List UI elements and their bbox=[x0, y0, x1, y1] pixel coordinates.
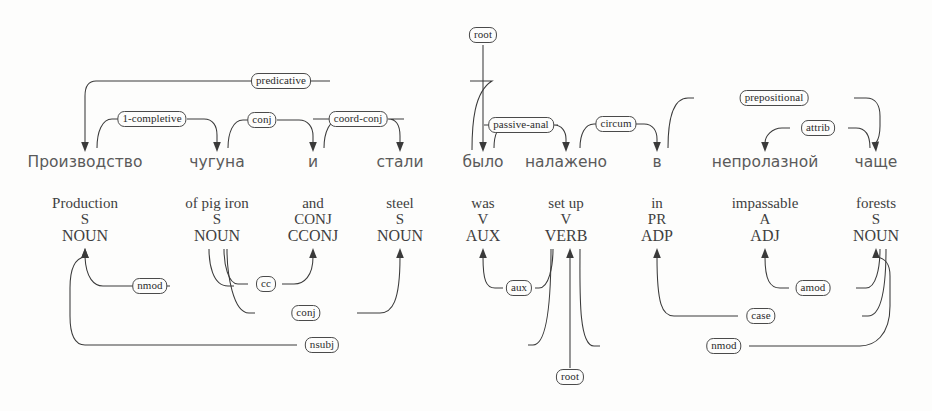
source-word-8[interactable]: чаще bbox=[855, 153, 898, 171]
gloss-block-1[interactable]: of pig ironSNOUN bbox=[185, 195, 248, 244]
relation-label-root-bottom[interactable]: root bbox=[556, 369, 584, 385]
gloss-block-4[interactable]: wasVAUX bbox=[466, 195, 501, 244]
relation-label-attrib[interactable]: attrib bbox=[801, 120, 835, 136]
relation-label-cc[interactable]: cc bbox=[256, 276, 276, 292]
relation-label-predicative[interactable]: predicative bbox=[251, 73, 311, 89]
gloss-pos-6: PR bbox=[641, 211, 673, 227]
relation-label-prepositional[interactable]: prepositional bbox=[740, 90, 809, 106]
gloss-pos-0: S bbox=[52, 211, 118, 227]
gloss-block-3[interactable]: steelSNOUN bbox=[377, 195, 423, 244]
gloss-block-6[interactable]: inPRADP bbox=[641, 195, 673, 244]
relation-label-passive-anal[interactable]: passive-anal bbox=[488, 117, 554, 133]
relation-label-coord-conj[interactable]: coord-conj bbox=[329, 111, 388, 127]
gloss-upos-7: ADJ bbox=[732, 227, 799, 244]
gloss-word-3: steel bbox=[377, 195, 423, 211]
gloss-upos-1: NOUN bbox=[185, 227, 248, 244]
gloss-upos-5: VERB bbox=[545, 227, 588, 244]
source-word-2[interactable]: и bbox=[308, 153, 318, 171]
gloss-pos-2: CONJ bbox=[288, 211, 339, 227]
relation-label-case[interactable]: case bbox=[746, 308, 775, 324]
gloss-upos-6: ADP bbox=[641, 227, 673, 244]
arc-prepositional bbox=[668, 98, 880, 152]
gloss-word-0: Production bbox=[52, 195, 118, 211]
gloss-pos-7: A bbox=[732, 211, 799, 227]
dependency-parse-figure: predicative1-completiveconjcoord-conjroo… bbox=[0, 0, 932, 411]
gloss-pos-1: S bbox=[185, 211, 248, 227]
relation-label-nmod-1[interactable]: nmod bbox=[132, 278, 167, 294]
gloss-upos-8: NOUN bbox=[853, 227, 899, 244]
source-word-4[interactable]: было bbox=[462, 153, 503, 171]
source-word-5[interactable]: налажено bbox=[525, 153, 607, 171]
arc-nmod-2 bbox=[580, 248, 890, 346]
source-word-3[interactable]: стали bbox=[376, 153, 423, 171]
relation-label-circum[interactable]: circum bbox=[595, 116, 636, 132]
relation-label-amod[interactable]: amod bbox=[796, 280, 831, 296]
source-word-1[interactable]: чугуна bbox=[189, 153, 244, 171]
gloss-word-7: impassable bbox=[732, 195, 799, 211]
gloss-block-8[interactable]: forestsSNOUN bbox=[853, 195, 899, 244]
arc-root-top bbox=[479, 45, 487, 152]
gloss-word-8: forests bbox=[853, 195, 899, 211]
gloss-word-4: was bbox=[466, 195, 501, 211]
gloss-word-2: and bbox=[288, 195, 339, 211]
gloss-pos-5: V bbox=[545, 211, 588, 227]
relation-label-conj[interactable]: conj bbox=[247, 112, 276, 128]
gloss-word-6: in bbox=[641, 195, 673, 211]
gloss-block-0[interactable]: ProductionSNOUN bbox=[52, 195, 118, 244]
gloss-upos-0: NOUN bbox=[52, 227, 118, 244]
gloss-word-5: set up bbox=[545, 195, 588, 211]
relation-label-conj-b[interactable]: conj bbox=[291, 305, 320, 321]
source-word-6[interactable]: в bbox=[652, 153, 661, 171]
source-word-7[interactable]: непролазной bbox=[712, 153, 818, 171]
arc-root-bottom bbox=[566, 248, 574, 368]
gloss-pos-4: V bbox=[466, 211, 501, 227]
relation-label-aux[interactable]: aux bbox=[506, 280, 532, 296]
gloss-block-5[interactable]: set upVVERB bbox=[545, 195, 588, 244]
gloss-pos-3: S bbox=[377, 211, 423, 227]
gloss-block-2[interactable]: andCONJCCONJ bbox=[288, 195, 339, 244]
relation-label-nsubj[interactable]: nsubj bbox=[305, 337, 339, 353]
relation-label-1-completive[interactable]: 1-completive bbox=[117, 111, 186, 127]
gloss-upos-4: AUX bbox=[466, 227, 501, 244]
relation-label-root-top[interactable]: root bbox=[469, 27, 497, 43]
arc-nsubj bbox=[70, 248, 551, 345]
source-word-0[interactable]: Производство bbox=[28, 153, 143, 171]
gloss-upos-2: CCONJ bbox=[288, 227, 339, 244]
gloss-pos-8: S bbox=[853, 211, 899, 227]
gloss-block-7[interactable]: impassableAADJ bbox=[732, 195, 799, 244]
relation-label-nmod-2[interactable]: nmod bbox=[706, 338, 741, 354]
gloss-upos-3: NOUN bbox=[377, 227, 423, 244]
gloss-word-1: of pig iron bbox=[185, 195, 248, 211]
